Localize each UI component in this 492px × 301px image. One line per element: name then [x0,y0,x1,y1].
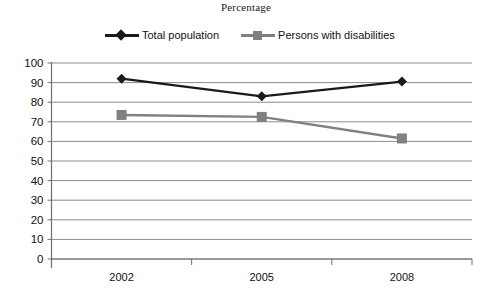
data-point-marker [257,91,267,101]
y-axis-tick-labels: 1009080706050403020100 [24,57,43,265]
y-tick-label: 50 [31,155,44,167]
y-tick-label: 70 [31,116,44,128]
y-tick-label: 20 [31,214,44,226]
y-tick-label: 30 [31,194,44,206]
y-tick-label: 90 [31,77,44,89]
y-tick-label: 40 [31,175,44,187]
data-point-marker [117,110,127,120]
data-point-marker [397,133,407,143]
x-axis-label: 2002 [109,271,133,283]
chart-svg: 1009080706050403020100 200220052008 [0,0,492,301]
data-point-marker [397,77,407,87]
x-axis-category-labels: 200220052008 [109,271,414,283]
y-tick-label: 10 [31,233,44,245]
x-axis-label: 2008 [390,271,414,283]
chart-page: Percentage Total population Persons with… [0,0,492,301]
x-axis-label: 2005 [250,271,274,283]
y-tick-label: 80 [31,96,44,108]
x-axis-ticks [52,259,473,265]
plot-area: 1009080706050403020100 200220052008 [0,0,492,301]
data-point-marker [257,112,267,122]
series-layer [117,74,407,144]
y-tick-label: 60 [31,135,44,147]
y-tick-label: 100 [24,57,43,69]
y-tick-label: 0 [37,253,43,265]
